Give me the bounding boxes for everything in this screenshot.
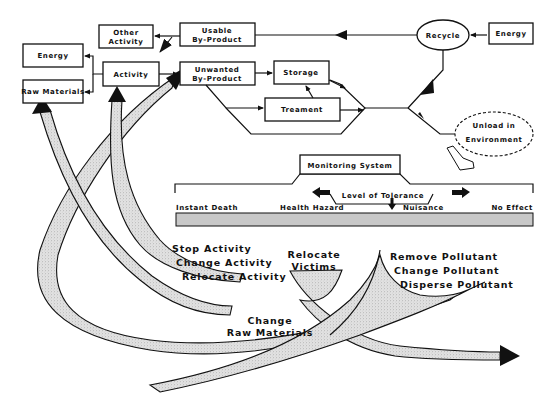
- tolerance-bar: [176, 213, 533, 226]
- arrow-right-tolerance: [452, 187, 470, 198]
- label-remove-pollutant: Remove Pollutant: [390, 251, 498, 262]
- label-unwanted-1: Unwanted: [195, 66, 240, 74]
- label-energy-left: Energy: [37, 52, 68, 60]
- label-relocate-activity: Relocate Activity: [182, 271, 286, 282]
- label-relocate: Relocate: [288, 249, 341, 260]
- label-victims: Victims: [291, 261, 336, 272]
- label-energy-right: Energy: [495, 30, 526, 38]
- label-level-of-tolerance: Level of Tolerance: [342, 192, 424, 200]
- arrowhead-victims: [500, 345, 520, 366]
- monitoring-system: Monitoring System Level of Tolerance Ins…: [175, 155, 533, 226]
- label-change-activity: Change Activity: [176, 257, 272, 268]
- ellipse-unload-environment: [455, 112, 533, 156]
- label-unload-1: Unload in: [473, 122, 516, 130]
- label-activity: Activity: [114, 71, 149, 79]
- label-storage: Storage: [283, 69, 318, 77]
- label-recycle: Recycle: [426, 32, 460, 40]
- pollution-control-diagram: Energy Raw Materials Activity Other Acti…: [0, 0, 554, 395]
- label-usable-1: Usable: [202, 27, 232, 35]
- label-unwanted-2: By-Product: [192, 75, 242, 83]
- label-disperse-pollutant: Disperse Pollutant: [400, 279, 514, 290]
- label-unload-2: Environment: [466, 136, 523, 144]
- label-other-activity-2: Activity: [109, 38, 144, 46]
- label-change-pollutant: Change Pollutant: [394, 265, 499, 276]
- label-monitoring: Monitoring System: [308, 162, 393, 170]
- scale-nuisance: Nuisance: [403, 204, 444, 212]
- arrow-left-tolerance: [312, 187, 330, 198]
- label-change: Change: [248, 315, 293, 326]
- label-other-activity-1: Other: [113, 29, 138, 37]
- label-treatment: Treament: [281, 106, 323, 114]
- scale-no-effect: No Effect: [491, 204, 533, 212]
- label-raw-materials: Raw Materials: [21, 88, 85, 96]
- scale-health-hazard: Health Hazard: [280, 204, 344, 212]
- label-usable-2: By-Product: [192, 36, 242, 44]
- label-raw-materials-response: Raw Materials: [227, 327, 313, 338]
- label-stop-activity: Stop Activity: [172, 243, 251, 254]
- scale-instant-death: Instant Death: [176, 204, 238, 212]
